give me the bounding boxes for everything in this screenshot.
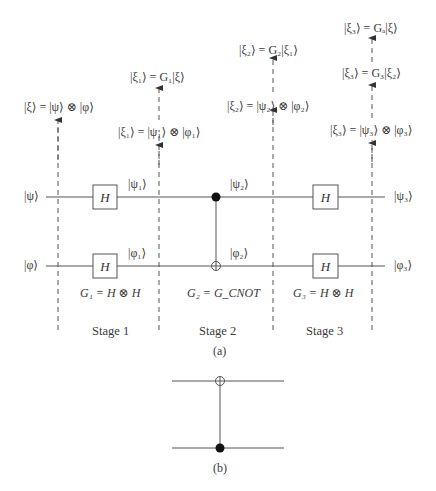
wire-label-phi2: |φ₂⟩ <box>230 247 248 259</box>
svg-text:H: H <box>320 259 331 274</box>
stage3-h-gate-bottom: H <box>313 254 338 278</box>
stage1-h-gate-top: H <box>93 185 117 209</box>
stage2-label: Stage 2 <box>199 325 236 338</box>
part-b-control-dot <box>216 444 225 453</box>
svg-text:H: H <box>99 190 110 205</box>
svg-text:H: H <box>99 259 110 274</box>
stage1-formula: G₁ = H ⊗ H <box>80 287 140 299</box>
state-xi1-gate: |ξ₁⟩ = G₁|ξ⟩ <box>130 71 185 83</box>
stage2-formula: G₂ = G_CNOT <box>187 287 260 299</box>
cnot-control-dot <box>212 193 221 202</box>
svg-text:H: H <box>320 190 331 205</box>
stage3-formula: G₃ = H ⊗ H <box>293 287 353 299</box>
state-xi1-tensor: |ξ₁⟩ = |ψ₁⟩ ⊗ |φ₁⟩ <box>118 126 200 138</box>
wire-label-psi1: |ψ₁⟩ <box>128 178 147 190</box>
input-label-phi: |φ⟩ <box>24 259 38 271</box>
stage1-h-gate-bottom: H <box>93 254 117 278</box>
caption-b: (b) <box>213 462 227 474</box>
state-xi3-gate: |ξ₃⟩ = G₃|ξ₂⟩ <box>342 67 401 79</box>
state-xi2-gate: |ξ₂⟩ = G₂|ξ₁⟩ <box>239 44 298 56</box>
input-label-psi: |ψ⟩ <box>24 190 39 202</box>
part-b-cnot-circuit <box>172 377 284 453</box>
state-xi3-overall: |ξ₃⟩ = Gₐ|ξ⟩ <box>344 22 398 34</box>
caption-a: (a) <box>213 345 226 357</box>
stage3-h-gate-top: H <box>313 185 338 209</box>
stage3-label: Stage 3 <box>306 325 343 338</box>
stage1-label: Stage 1 <box>92 325 129 338</box>
state-xi2-tensor: |ξ₂⟩ = |ψ₂⟩ ⊗ |φ₂⟩ <box>227 100 309 112</box>
output-label-phi3: |φ₃⟩ <box>394 259 412 271</box>
wire-label-psi2: |ψ₂⟩ <box>230 178 249 190</box>
state-xi3-tensor: |ξ₃⟩ = |ψ₃⟩ ⊗ |φ₃⟩ <box>330 124 412 136</box>
output-label-psi3: |ψ₃⟩ <box>394 190 413 202</box>
stage2-cnot-gate <box>212 193 221 271</box>
state-xi0: |ξ⟩ = |ψ⟩ ⊗ |φ⟩ <box>24 101 94 113</box>
wire-label-phi1: |φ₁⟩ <box>128 247 146 259</box>
state-arrows <box>58 38 372 165</box>
